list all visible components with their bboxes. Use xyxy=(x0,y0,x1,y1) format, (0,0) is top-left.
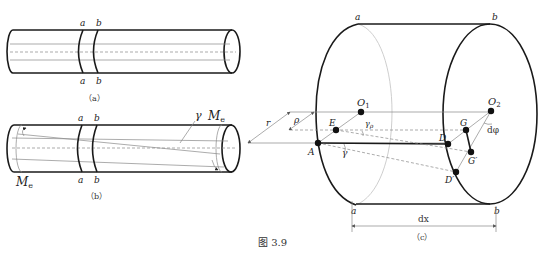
label-b-top: b xyxy=(96,18,102,28)
section-b-line xyxy=(94,30,99,73)
label-G-prime: G′ xyxy=(468,156,477,166)
figure-caption: 图 3.9 xyxy=(258,237,287,248)
section-a-outline xyxy=(316,24,358,205)
label-gamma-b: γ xyxy=(195,109,202,122)
label-b-top-c: b xyxy=(492,12,498,22)
label-dx: dx xyxy=(418,214,429,224)
figure-3-9: a b a b （a） a b a b γ Me Me （b） xyxy=(0,0,550,259)
label-a-bottom-b: a xyxy=(78,175,83,185)
label-b-top-b: b xyxy=(94,113,100,123)
label-E: E xyxy=(328,118,336,128)
point-G-prime xyxy=(468,149,474,155)
label-O2: O2 xyxy=(488,96,501,109)
panel-b-cylinder: a b a b γ Me Me （b） xyxy=(7,109,240,201)
label-G: G xyxy=(460,118,467,128)
label-D-prime: D′ xyxy=(444,175,454,185)
point-O2 xyxy=(488,108,494,114)
label-a-top-c: a xyxy=(355,12,360,22)
label-gamma-c: γ xyxy=(342,148,348,158)
point-A xyxy=(315,140,321,146)
panel-a-cylinder: a b a b （a） xyxy=(7,18,240,103)
panel-c-element: a b a b r ρ O1 O2 E G D G′ A D′ γρ γ dφ … xyxy=(248,12,537,242)
label-rho: ρ xyxy=(293,115,300,125)
caption-a: （a） xyxy=(84,94,105,103)
point-O1 xyxy=(358,109,364,115)
label-A: A xyxy=(307,147,315,157)
label-a-top: a xyxy=(80,18,85,28)
label-D: D xyxy=(438,133,446,143)
label-gamma-rho: γρ xyxy=(365,119,374,130)
label-dphi: dφ xyxy=(487,125,499,135)
caption-c: （c） xyxy=(412,233,432,242)
label-b-bottom-b: b xyxy=(94,175,100,185)
caption-b: （b） xyxy=(86,192,107,201)
label-b-bottom-c: b xyxy=(494,206,500,216)
label-r: r xyxy=(266,118,271,128)
label-torque-left: Me xyxy=(15,175,33,190)
label-b-bottom: b xyxy=(96,76,102,86)
label-a-bottom: a xyxy=(80,76,85,86)
label-torque-right: Me xyxy=(207,109,225,124)
label-O1: O1 xyxy=(357,97,370,110)
label-a-top-b: a xyxy=(78,113,83,123)
section-a-line xyxy=(79,30,84,73)
